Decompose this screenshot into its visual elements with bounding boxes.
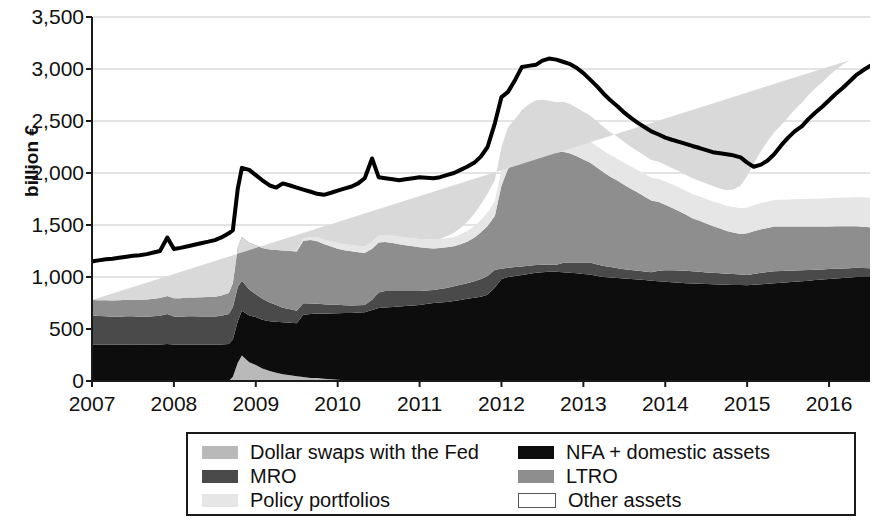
- swatch-other-assets: [518, 493, 556, 508]
- chart-figure: billion € 05001,0001,5002,0002,5003,0003…: [0, 0, 873, 524]
- legend-item-label: Dollar swaps with the Fed: [250, 442, 479, 462]
- x-axis-tick-label: 2016: [789, 393, 869, 414]
- legend-item-label: Other assets: [568, 490, 681, 510]
- x-axis-tick-label: 2013: [543, 393, 623, 414]
- swatch-ltro: [518, 470, 554, 483]
- x-axis-tick-label: 2015: [707, 393, 787, 414]
- legend-item[interactable]: Dollar swaps with the Fed: [202, 440, 479, 464]
- x-axis-tick-label: 2009: [216, 393, 296, 414]
- legend-item-label: NFA + domestic assets: [566, 442, 770, 462]
- legend-item-label: Policy portfolios: [250, 490, 390, 510]
- x-axis-tick-label: 2008: [134, 393, 214, 414]
- legend-item[interactable]: Policy portfolios: [202, 488, 479, 512]
- legend-column-left: Dollar swaps with the FedMROPolicy portf…: [202, 440, 479, 512]
- legend-item[interactable]: NFA + domestic assets: [518, 440, 770, 464]
- swatch-policy-portfolios: [202, 494, 238, 507]
- swatch-dollar-swaps: [202, 446, 238, 459]
- chart-legend: Dollar swaps with the FedMROPolicy portf…: [186, 432, 856, 516]
- legend-item-label: LTRO: [566, 466, 618, 486]
- x-axis-tick-label: 2010: [298, 393, 378, 414]
- swatch-nfa-domestic-assets: [518, 446, 554, 459]
- legend-item[interactable]: Other assets: [518, 488, 770, 512]
- x-axis-tick-label: 2012: [461, 393, 541, 414]
- legend-item[interactable]: LTRO: [518, 464, 770, 488]
- legend-item[interactable]: MRO: [202, 464, 479, 488]
- legend-column-right: NFA + domestic assetsLTROOther assets: [518, 440, 770, 512]
- swatch-mro: [202, 470, 238, 483]
- x-axis-tick-label: 2007: [52, 393, 132, 414]
- legend-item-label: MRO: [250, 466, 297, 486]
- x-axis-tick-label: 2014: [625, 393, 705, 414]
- x-axis-tick-label: 2011: [380, 393, 460, 414]
- stacked-areas: [92, 60, 870, 381]
